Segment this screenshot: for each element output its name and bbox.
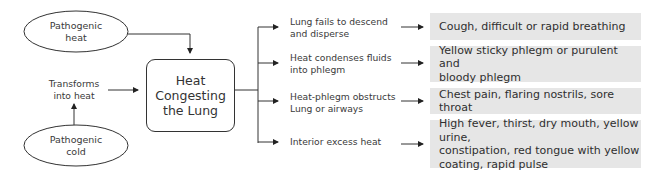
symptom-1-line-1: Cough, difficult or rapid breathing <box>439 20 625 34</box>
symptom-3-line-1: Chest pain, flaring nostrils, sore throa… <box>439 88 641 115</box>
mechanism-2: Heat condenses fluids into phlegm <box>290 52 391 75</box>
symptom-4-line-2: constipation, red tongue with yellow <box>439 144 641 158</box>
mechanism-3-line-2: Lung or airways <box>290 103 396 115</box>
pathogenic-cold-line-1: Pathogenic <box>36 134 116 146</box>
transform-line-2: into heat <box>36 90 112 102</box>
mechanism-1-line-1: Lung fails to descend <box>290 16 388 28</box>
pathogenic-heat-line-1: Pathogenic <box>36 20 116 32</box>
pathogenic-cold-label: Pathogenic cold <box>36 134 116 158</box>
center-line-1: Heat <box>155 73 226 88</box>
symptom-4-line-3: coating, rapid pulse <box>439 158 641 172</box>
symptom-box-4: High fever, thirst, dry mouth, yellow ur… <box>430 120 641 168</box>
mechanism-3-line-1: Heat-phlegm obstructs <box>290 91 396 103</box>
center-line-2: Congesting <box>155 88 226 103</box>
transform-line-1: Transforms <box>36 78 112 90</box>
mechanism-1: Lung fails to descend and disperse <box>290 16 388 39</box>
symptom-box-3: Chest pain, flaring nostrils, sore throa… <box>430 88 641 114</box>
symptom-4-line-1: High fever, thirst, dry mouth, yellow ur… <box>439 117 641 144</box>
symptom-2-line-2: bloody phlegm <box>439 71 641 85</box>
transforms-into-heat-label: Transforms into heat <box>36 78 112 102</box>
mechanism-4: Interior excess heat <box>290 136 381 148</box>
pathogenic-heat-label: Pathogenic heat <box>36 20 116 44</box>
mechanism-2-line-1: Heat condenses fluids <box>290 52 391 64</box>
mechanism-4-line-1: Interior excess heat <box>290 136 381 148</box>
symptom-box-1: Cough, difficult or rapid breathing <box>430 13 641 40</box>
center-line-3: the Lung <box>155 103 226 118</box>
symptom-2-line-1: Yellow sticky phlegm or purulent and <box>439 44 641 71</box>
heat-congesting-lung-box: Heat Congesting the Lung <box>146 59 235 132</box>
heat-to-center-arrow <box>128 34 190 53</box>
mechanism-1-line-2: and disperse <box>290 28 388 40</box>
mechanism-2-line-2: into phlegm <box>290 64 391 76</box>
symptom-box-2: Yellow sticky phlegm or purulent and blo… <box>430 46 641 82</box>
pathogenic-cold-line-2: cold <box>36 146 116 158</box>
mechanism-3: Heat-phlegm obstructs Lung or airways <box>290 91 396 114</box>
pathogenic-heat-line-2: heat <box>36 32 116 44</box>
